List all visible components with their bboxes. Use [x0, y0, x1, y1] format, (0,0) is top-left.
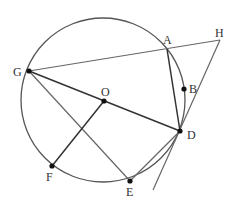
segment-a-d	[167, 49, 180, 131]
geometry-diagram: AHBGODFE	[0, 0, 236, 201]
point-g-dot	[26, 68, 31, 73]
point-d-dot	[177, 128, 182, 133]
segment-g-e	[29, 71, 130, 181]
segments	[29, 40, 220, 190]
segment-h-d-ext	[153, 40, 220, 190]
segment-e-d	[130, 131, 180, 181]
point-f-dot	[49, 163, 54, 168]
segment-g-h	[29, 40, 220, 71]
point-o-label: O	[101, 85, 110, 99]
points: AHBGODFE	[13, 26, 224, 199]
point-e-label: E	[126, 185, 133, 199]
point-a-label: A	[163, 33, 172, 47]
segment-o-f	[52, 101, 104, 166]
point-f-label: F	[46, 170, 53, 184]
point-d-label: D	[187, 128, 196, 142]
point-e-dot	[127, 178, 132, 183]
point-b-label: B	[189, 82, 197, 96]
point-b-dot	[181, 86, 186, 91]
point-h-label: H	[215, 26, 224, 40]
point-o-dot	[101, 98, 106, 103]
point-g-label: G	[13, 65, 22, 79]
